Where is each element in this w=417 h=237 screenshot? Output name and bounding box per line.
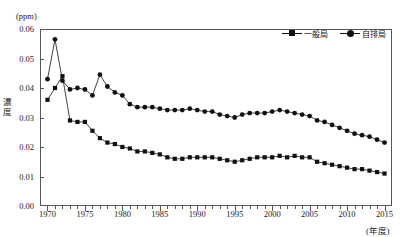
data-point-circle <box>255 111 260 116</box>
data-point-square <box>158 152 162 156</box>
data-point-square <box>308 155 312 159</box>
data-point-circle <box>382 140 387 145</box>
data-point-square <box>315 160 319 164</box>
data-point-square <box>113 142 117 146</box>
data-point-circle <box>83 87 88 92</box>
data-point-circle <box>135 105 140 110</box>
data-point-square <box>128 146 132 150</box>
data-point-circle <box>307 114 312 119</box>
data-point-square <box>90 129 94 133</box>
data-point-circle <box>232 115 237 120</box>
legend-marker-square-icon <box>282 29 302 38</box>
data-point-square <box>233 160 237 164</box>
data-point-square <box>367 169 371 173</box>
data-point-square <box>195 155 199 159</box>
legend: 一般局 自排局 <box>282 26 394 40</box>
data-point-square <box>285 155 289 159</box>
data-point-square <box>337 164 341 168</box>
data-point-square <box>240 158 244 162</box>
data-point-square <box>300 155 304 159</box>
data-point-square <box>203 155 207 159</box>
data-point-square <box>210 155 214 159</box>
data-point-circle <box>150 105 155 110</box>
data-point-circle <box>202 109 207 114</box>
data-point-square <box>382 171 386 175</box>
data-point-circle <box>53 37 58 42</box>
legend-label-jihaikyoku: 自排局 <box>362 28 386 39</box>
data-point-circle <box>75 86 80 91</box>
data-point-circle <box>187 106 192 111</box>
series-ippankyoku <box>45 74 386 176</box>
data-point-circle <box>322 120 327 125</box>
data-point-circle <box>367 134 372 139</box>
figure-root: (ppm) 濃 度 (年度) 0.000.010.020.030.040.050… <box>0 0 417 237</box>
data-point-circle <box>180 108 185 113</box>
data-point-circle <box>98 72 103 77</box>
data-point-square <box>263 155 267 159</box>
data-point-square <box>105 140 109 144</box>
data-point-square <box>135 149 139 153</box>
data-point-circle <box>270 109 275 114</box>
data-point-square <box>68 118 72 122</box>
data-point-square <box>345 166 349 170</box>
data-point-circle <box>195 108 200 113</box>
data-point-square <box>173 157 177 161</box>
data-point-circle <box>172 108 177 113</box>
data-point-square <box>165 155 169 159</box>
data-point-square <box>278 154 282 158</box>
legend-entry-ippankyoku[interactable]: 一般局 <box>282 26 328 40</box>
data-point-square <box>225 158 229 162</box>
data-point-square <box>248 157 252 161</box>
data-point-square <box>75 120 79 124</box>
data-point-square <box>188 155 192 159</box>
data-point-square <box>83 120 87 124</box>
data-point-circle <box>330 122 335 127</box>
data-point-circle <box>157 106 162 111</box>
data-point-square <box>120 145 124 149</box>
data-point-square <box>255 155 259 159</box>
data-point-circle <box>217 112 222 117</box>
data-point-square <box>218 157 222 161</box>
data-point-square <box>375 170 379 174</box>
data-point-square <box>270 155 274 159</box>
data-point-circle <box>120 93 125 98</box>
data-point-circle <box>345 128 350 133</box>
data-point-circle <box>247 111 252 116</box>
data-point-circle <box>90 93 95 98</box>
data-point-square <box>330 163 334 167</box>
data-point-circle <box>240 112 245 117</box>
data-point-circle <box>337 125 342 130</box>
data-point-square <box>150 151 154 155</box>
data-point-circle <box>60 78 65 83</box>
data-point-circle <box>45 77 50 82</box>
data-point-circle <box>210 109 215 114</box>
data-point-circle <box>277 108 282 113</box>
data-point-circle <box>360 133 365 138</box>
data-point-circle <box>112 90 117 95</box>
data-point-square <box>53 86 57 90</box>
series-jihaikyoku <box>45 37 387 145</box>
data-point-circle <box>292 111 297 116</box>
data-point-square <box>323 161 327 165</box>
data-point-square <box>45 98 49 102</box>
data-point-square <box>180 157 184 161</box>
legend-marker-circle-icon <box>340 29 360 38</box>
data-point-square <box>293 154 297 158</box>
data-point-circle <box>142 105 147 110</box>
series-line <box>47 39 384 142</box>
data-point-square <box>360 167 364 171</box>
data-point-circle <box>105 84 110 89</box>
legend-label-ippankyoku: 一般局 <box>304 28 328 39</box>
data-point-circle <box>225 114 230 119</box>
data-point-circle <box>165 108 170 113</box>
data-point-circle <box>375 137 380 142</box>
legend-entry-jihaikyoku[interactable]: 自排局 <box>340 26 386 40</box>
data-point-circle <box>285 109 290 114</box>
data-point-circle <box>300 112 305 117</box>
data-point-circle <box>262 111 267 116</box>
data-point-circle <box>352 131 357 136</box>
data-point-circle <box>68 87 73 92</box>
data-point-square <box>98 136 102 140</box>
data-point-square <box>352 167 356 171</box>
data-point-circle <box>127 102 132 107</box>
